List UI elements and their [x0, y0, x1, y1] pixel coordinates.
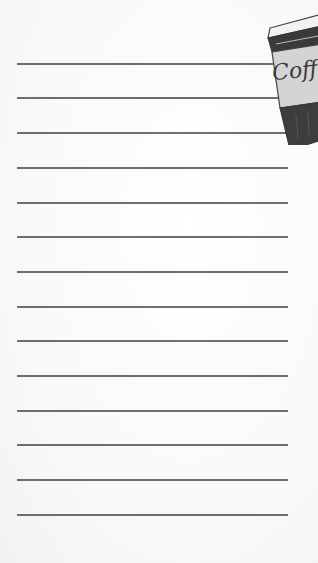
ruled-line: [17, 63, 288, 65]
ruled-line: [17, 132, 288, 134]
ruled-line: [17, 514, 288, 516]
ruled-line: [17, 410, 288, 412]
ruled-line: [17, 375, 288, 377]
ruled-line: [17, 340, 288, 342]
ruled-line: [17, 236, 288, 238]
ruled-line: [17, 479, 288, 481]
ruled-line: [17, 202, 288, 204]
ruled-line: [17, 271, 288, 273]
cup-label-text: Coff: [271, 56, 318, 86]
ruled-line: [17, 97, 288, 99]
ruled-line: [17, 444, 288, 446]
ruled-line: [17, 306, 288, 308]
ruled-line: [17, 167, 288, 169]
